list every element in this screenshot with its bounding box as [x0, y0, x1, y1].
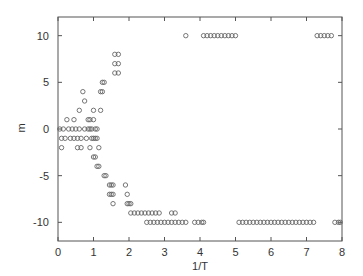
data-point	[77, 108, 81, 112]
x-tick-label: 1	[90, 246, 96, 258]
data-point	[184, 33, 188, 37]
scatter-chart: 012345678-10-50510 1/T m	[0, 0, 363, 276]
x-tick-label: 2	[126, 246, 132, 258]
data-point	[65, 117, 69, 121]
y-tick-label: 0	[43, 123, 49, 135]
y-tick-label: 10	[37, 30, 49, 42]
x-tick-label: 3	[161, 246, 167, 258]
data-point	[111, 201, 115, 205]
data-point	[97, 145, 101, 149]
y-tick-label: -10	[33, 216, 49, 228]
data-point	[98, 108, 102, 112]
x-axis-label: 1/T	[192, 260, 208, 272]
data-point	[91, 108, 95, 112]
x-tick-label: 7	[303, 246, 309, 258]
data-point	[88, 145, 92, 149]
y-tick-label: -5	[39, 170, 49, 182]
data-point	[81, 89, 85, 93]
data-point	[123, 183, 127, 187]
data-point	[72, 117, 76, 121]
y-tick-label: 5	[43, 76, 49, 88]
x-tick-label: 5	[232, 246, 238, 258]
x-tick-label: 6	[268, 246, 274, 258]
x-tick-label: 4	[197, 246, 203, 258]
axes-frame	[58, 17, 342, 241]
data-point	[125, 192, 129, 196]
data-points	[58, 33, 343, 224]
plot-border	[58, 17, 342, 241]
x-tick-label: 8	[339, 246, 345, 258]
data-point	[82, 99, 86, 103]
y-axis-label: m	[15, 123, 27, 132]
data-point	[59, 145, 63, 149]
data-point	[84, 136, 88, 140]
x-tick-label: 0	[55, 246, 61, 258]
